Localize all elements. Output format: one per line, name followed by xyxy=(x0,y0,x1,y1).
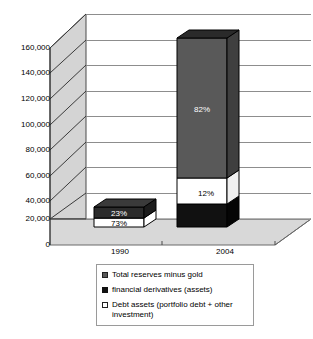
bar-2004-label-debt: 12% xyxy=(198,189,214,198)
y-tick-label-20000: 20,000 xyxy=(2,214,50,223)
y-tick-label-40000: 40,000 xyxy=(2,196,50,205)
y-tick-label-160000: 160,000 xyxy=(2,43,50,52)
legend-swatch-icon-derivatives xyxy=(102,287,108,293)
legend-item-debt-assets[interactable]: Debt assets (portfolio debt + other inve… xyxy=(102,300,249,320)
bar-1990-label-reserves: 23% xyxy=(111,209,127,218)
bar-1990-label-debt: 73% xyxy=(111,219,127,228)
legend-swatch-icon-reserves xyxy=(102,272,108,278)
chart-figure: 160,000 140,000 120,000 100,000 80,000 6… xyxy=(0,0,313,339)
y-tick-label-80000: 80,000 xyxy=(2,145,50,154)
legend-label-debt: Debt assets (portfolio debt + other inve… xyxy=(112,300,249,320)
legend-swatch-icon-debt xyxy=(102,302,108,308)
y-tick-label-60000: 60,000 xyxy=(2,171,50,180)
bar-2004[interactable]: 82% 12% xyxy=(175,26,251,230)
plot-area: 160,000 140,000 120,000 100,000 80,000 6… xyxy=(0,0,313,260)
y-tick-label-0: 0 xyxy=(2,240,50,249)
legend-label-derivatives: financial derivatives (assets) xyxy=(112,285,212,295)
gridline-160000 xyxy=(86,14,311,15)
bar-1990[interactable]: 23% 73% xyxy=(92,196,168,230)
chart-legend: Total reserves minus gold financial deri… xyxy=(96,264,254,326)
legend-item-financial-derivatives[interactable]: financial derivatives (assets) xyxy=(102,285,249,295)
y-tick-label-120000: 120,000 xyxy=(2,94,50,103)
y-tick-label-140000: 140,000 xyxy=(2,68,50,77)
x-axis-label-2004: 2004 xyxy=(190,247,260,256)
y-tick-label-100000: 100,000 xyxy=(2,120,50,129)
legend-label-reserves: Total reserves minus gold xyxy=(112,270,203,280)
x-axis-label-1990: 1990 xyxy=(85,247,155,256)
bar-2004-label-reserves: 82% xyxy=(194,105,210,114)
legend-item-total-reserves[interactable]: Total reserves minus gold xyxy=(102,270,249,280)
